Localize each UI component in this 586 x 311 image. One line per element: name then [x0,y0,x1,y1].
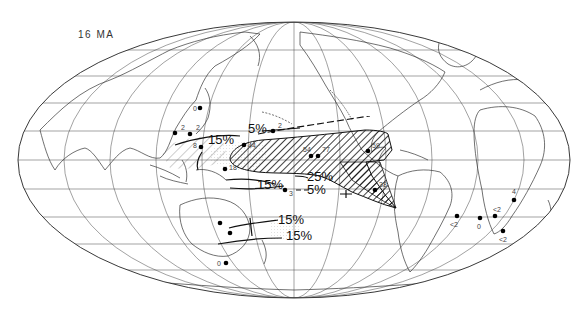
site-marker [501,229,506,234]
site-value-label: 54 [303,146,311,153]
site-value-label: 4 [512,188,516,195]
site-marker [198,106,203,111]
site-marker [478,216,483,221]
site-marker [228,231,233,236]
contour-label: 5% [307,182,326,197]
site-marker [455,214,460,219]
site-marker [316,154,321,159]
site-value-label: 2 [278,122,282,129]
site-marker [224,261,229,266]
site-value-label: <2 [493,206,501,213]
site-marker [218,221,223,226]
site-value-label: 2 [181,124,185,131]
site-value-label: 2 [196,124,200,131]
site-value-label: 44 [248,142,256,149]
site-value-label: <2 [450,221,458,228]
site-value-label: <2 [499,236,507,243]
site-marker [271,129,276,134]
site-marker [223,167,228,172]
site-marker [373,188,378,193]
site-value-label: 77 [322,146,330,153]
site-value-label: 0 [193,105,197,112]
site-value-label: 0 [217,260,221,267]
site-value-label: 3 [289,190,293,197]
site-value-label: 18 [229,164,237,171]
site-marker [283,188,288,193]
contour-label: 15% [257,177,283,192]
site-value-label: 0 [477,223,481,230]
site-marker [512,198,517,203]
site-value-label: 59 [372,142,380,149]
site-marker [366,149,371,154]
site-marker [242,143,247,148]
site-value-label: 38 [379,181,387,188]
site-marker [173,131,178,136]
contour-label: 15% [286,228,312,243]
site-marker [309,154,314,159]
contour-label: 15% [208,132,234,147]
site-marker [493,214,498,219]
contour-label: 5% [248,121,267,136]
site-marker [188,132,193,137]
world-map: 5% 15% 25% 15% 5% 15% 15% 02228441854775… [0,0,586,311]
site-value-label: 8 [193,142,197,149]
site-marker [199,145,204,150]
contour-label: 15% [278,212,304,227]
